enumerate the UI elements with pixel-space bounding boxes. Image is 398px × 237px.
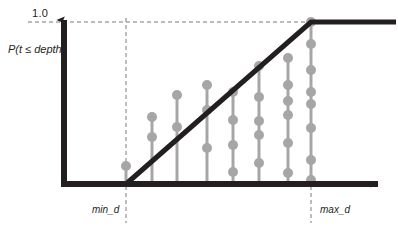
y-axis-title: P(t ≤ depth) xyxy=(8,44,65,55)
cdf-diagram: 1.0 P(t ≤ depth) min_d max_d xyxy=(0,0,398,237)
min-depth-label: min_d xyxy=(92,205,119,215)
max-depth-label: max_d xyxy=(320,205,350,215)
y-axis-tick-label: 1.0 xyxy=(32,8,48,19)
plot-area xyxy=(0,0,398,237)
